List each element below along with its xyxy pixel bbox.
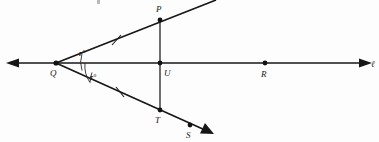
geometry-figure: Q P U R T S r° r° ℓ bbox=[0, 0, 379, 142]
point-label-R: R bbox=[260, 69, 267, 79]
geometry-canvas: Q P U R T S r° r° ℓ bbox=[0, 0, 379, 142]
point-dot-Q bbox=[53, 60, 58, 65]
line-label-l: ℓ bbox=[371, 59, 375, 69]
angle-label-PQU: r° bbox=[79, 49, 86, 58]
angle-label-UQT: r° bbox=[90, 73, 97, 82]
line-l bbox=[6, 59, 372, 68]
point-label-P: P bbox=[155, 4, 162, 14]
tick-mark-QT bbox=[116, 87, 124, 97]
scan-artifact-top bbox=[97, 0, 100, 4]
point-label-Q: Q bbox=[50, 68, 57, 78]
point-dot-U bbox=[158, 61, 163, 66]
point-dot-T bbox=[158, 108, 163, 113]
point-dot-R bbox=[263, 61, 268, 66]
ray-lower-body bbox=[56, 63, 205, 130]
line-l-arrowhead-left bbox=[6, 59, 19, 68]
point-label-U: U bbox=[164, 68, 171, 78]
point-dot-P bbox=[158, 18, 163, 23]
point-dot-S bbox=[188, 123, 193, 128]
point-label-S: S bbox=[186, 130, 191, 140]
point-label-T: T bbox=[155, 115, 161, 125]
